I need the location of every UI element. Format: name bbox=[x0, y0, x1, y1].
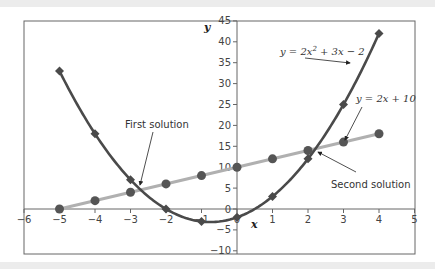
x-tick-label: 4 bbox=[376, 214, 382, 225]
second-solution-label: Second solution bbox=[331, 179, 411, 190]
first-solution-label: First solution bbox=[125, 119, 189, 130]
y-tick-label: 40 bbox=[218, 36, 231, 47]
y-tick-label: 20 bbox=[218, 120, 231, 131]
chart: −6−5−4−3−2−1012345−10−505101520253035404… bbox=[0, 0, 435, 269]
quad-eq-suffix: + 3x − 2 bbox=[317, 46, 365, 57]
linear-data-point bbox=[197, 171, 206, 180]
x-tick-label: −6 bbox=[17, 214, 32, 225]
y-tick-label: −5 bbox=[216, 224, 231, 235]
y-axis-label: y bbox=[203, 21, 212, 34]
y-tick-label: 35 bbox=[218, 57, 231, 68]
second-solution-arrow bbox=[318, 152, 356, 172]
linear-data-point bbox=[91, 196, 100, 205]
quadratic-data-point bbox=[55, 67, 64, 76]
y-tick-label: 15 bbox=[218, 141, 231, 152]
y-tick-label: 45 bbox=[218, 15, 231, 26]
x-tick-label: −5 bbox=[52, 214, 67, 225]
y-tick-label: 30 bbox=[218, 78, 231, 89]
linear-data-point bbox=[55, 205, 64, 214]
x-axis-label: x bbox=[250, 218, 258, 231]
linear-data-point bbox=[304, 146, 313, 155]
first-solution-arrow bbox=[140, 132, 153, 185]
x-tick-label: 2 bbox=[305, 214, 311, 225]
quad-eq-prefix: y = 2x bbox=[279, 46, 313, 57]
linear-data-point bbox=[126, 188, 135, 197]
quadratic-data-point bbox=[375, 29, 384, 38]
x-tick-label: −2 bbox=[159, 214, 174, 225]
linear-label-arrow bbox=[345, 107, 362, 140]
linear-data-point bbox=[233, 163, 242, 172]
linear-data-point bbox=[375, 129, 384, 138]
linear-data-point bbox=[268, 154, 277, 163]
x-tick-label: 3 bbox=[340, 214, 346, 225]
linear-data-point bbox=[162, 179, 171, 188]
x-tick-label: 1 bbox=[269, 214, 275, 225]
y-tick-label: 25 bbox=[218, 99, 231, 110]
y-tick-label: −10 bbox=[210, 245, 231, 256]
x-tick-label: −4 bbox=[88, 214, 103, 225]
linear-equation-label: y = 2x + 10 bbox=[355, 93, 416, 104]
quadratic-equation-label: y = 2x2 + 3x − 2 bbox=[279, 45, 365, 57]
y-tick-label: 5 bbox=[225, 183, 231, 194]
quadratic-label-arrow bbox=[305, 58, 350, 63]
y-tick-label: 0 bbox=[225, 204, 231, 215]
x-tick-label: 5 bbox=[411, 214, 417, 225]
x-tick-label: −3 bbox=[123, 214, 138, 225]
linear-data-point bbox=[339, 138, 348, 147]
